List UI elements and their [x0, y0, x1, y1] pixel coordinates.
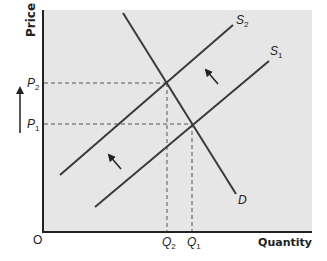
q2-sub: 2 — [171, 242, 176, 251]
p2-sub: 2 — [35, 83, 40, 92]
s1-sub: 1 — [278, 51, 283, 60]
curve-label-d: D — [238, 193, 247, 207]
quantity-label-q1: Q1 — [187, 235, 201, 251]
q2-base: Q — [162, 235, 171, 249]
origin-label: O — [33, 233, 42, 247]
quantity-label-q2: Q2 — [162, 235, 176, 251]
p1-base: P — [27, 117, 35, 131]
price-label-p1: P1 — [27, 117, 40, 133]
supply-demand-diagram: Price Quantity O P2 P1 Q2 Q1 S2 S1 D — [0, 0, 327, 261]
p2-base: P — [27, 76, 35, 90]
s1-base: S — [270, 44, 278, 58]
price-label-p2: P2 — [27, 76, 40, 92]
q1-base: Q — [187, 235, 196, 249]
s2-sub: 2 — [244, 20, 249, 29]
y-axis-title: Price — [24, 3, 38, 37]
s2-base: S — [236, 13, 244, 27]
q1-sub: 1 — [196, 242, 201, 251]
x-axis-title: Quantity — [258, 236, 312, 249]
p1-sub: 1 — [35, 124, 40, 133]
